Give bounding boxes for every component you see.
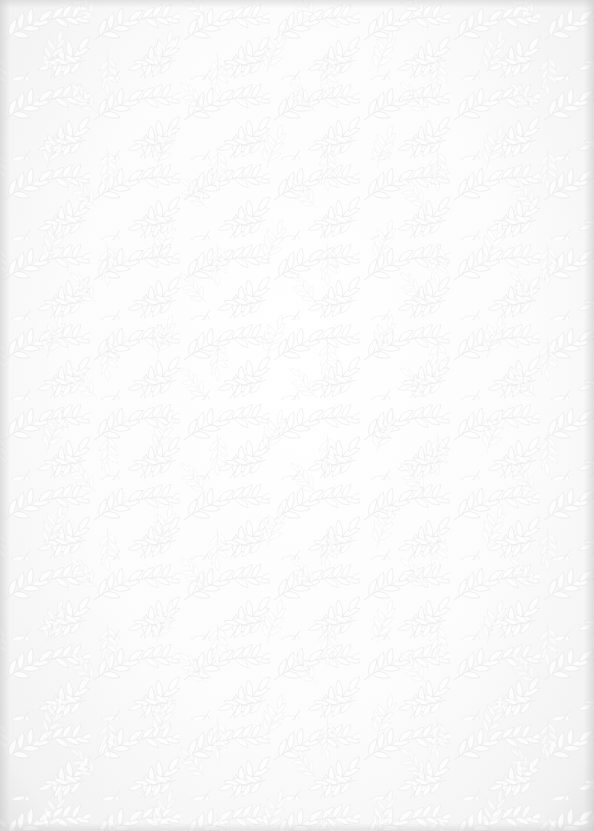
embossed-paper [0,0,594,831]
leaf-vine-pattern [0,0,594,831]
